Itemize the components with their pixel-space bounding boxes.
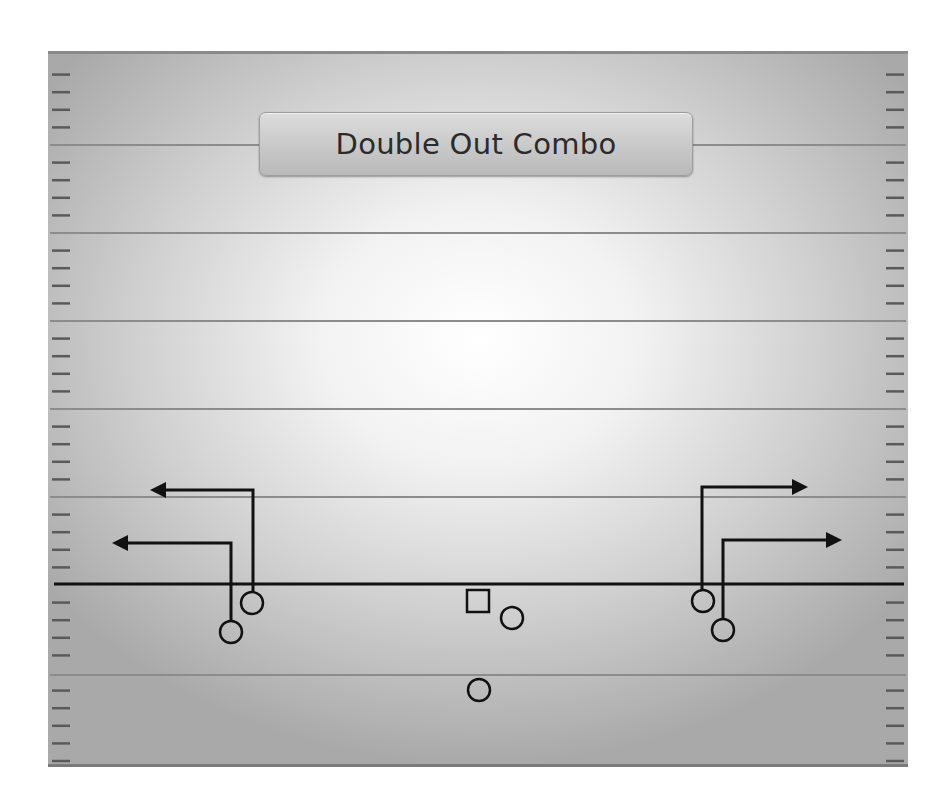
- arrow-icon: [112, 535, 128, 551]
- hash-marks: [52, 75, 904, 761]
- player-left-wr: [220, 621, 242, 643]
- player-qb: [468, 679, 490, 701]
- center-square: [467, 590, 489, 612]
- arrow-icon: [792, 479, 808, 495]
- play-title: Double Out Combo: [336, 127, 617, 161]
- player-guard-rb: [501, 607, 523, 629]
- route-right-wr-out: [723, 540, 830, 618]
- routes: [112, 479, 842, 620]
- route-left-wr-out: [124, 543, 231, 620]
- route-right-slot-out: [702, 487, 796, 589]
- title-banner: Double Out Combo: [259, 112, 693, 176]
- route-left-slot-out: [162, 490, 253, 591]
- yard-lines: [50, 145, 906, 675]
- arrow-icon: [826, 532, 842, 548]
- players: [220, 590, 734, 701]
- player-right-slot: [692, 590, 714, 612]
- arrow-icon: [150, 482, 166, 498]
- player-right-wr: [712, 619, 734, 641]
- player-left-slot: [241, 592, 263, 614]
